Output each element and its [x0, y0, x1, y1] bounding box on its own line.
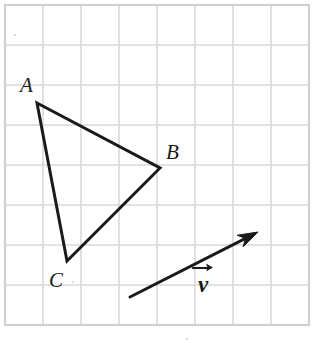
vector-label: v [192, 262, 214, 296]
paper-speck [72, 281, 74, 283]
vertex-label-a: A [20, 75, 33, 96]
vector-label-text: v [192, 271, 214, 296]
figure-shapes [0, 0, 319, 343]
vertex-label-b: B [166, 142, 179, 163]
translation-vector-shaft [130, 236, 250, 297]
vertex-label-c: C [49, 270, 63, 291]
right-arrow-icon [192, 262, 214, 271]
paper-speck [186, 338, 188, 340]
paper-speck [14, 34, 16, 36]
triangle-abc [37, 103, 160, 261]
geometry-figure: A B C v [0, 0, 319, 343]
